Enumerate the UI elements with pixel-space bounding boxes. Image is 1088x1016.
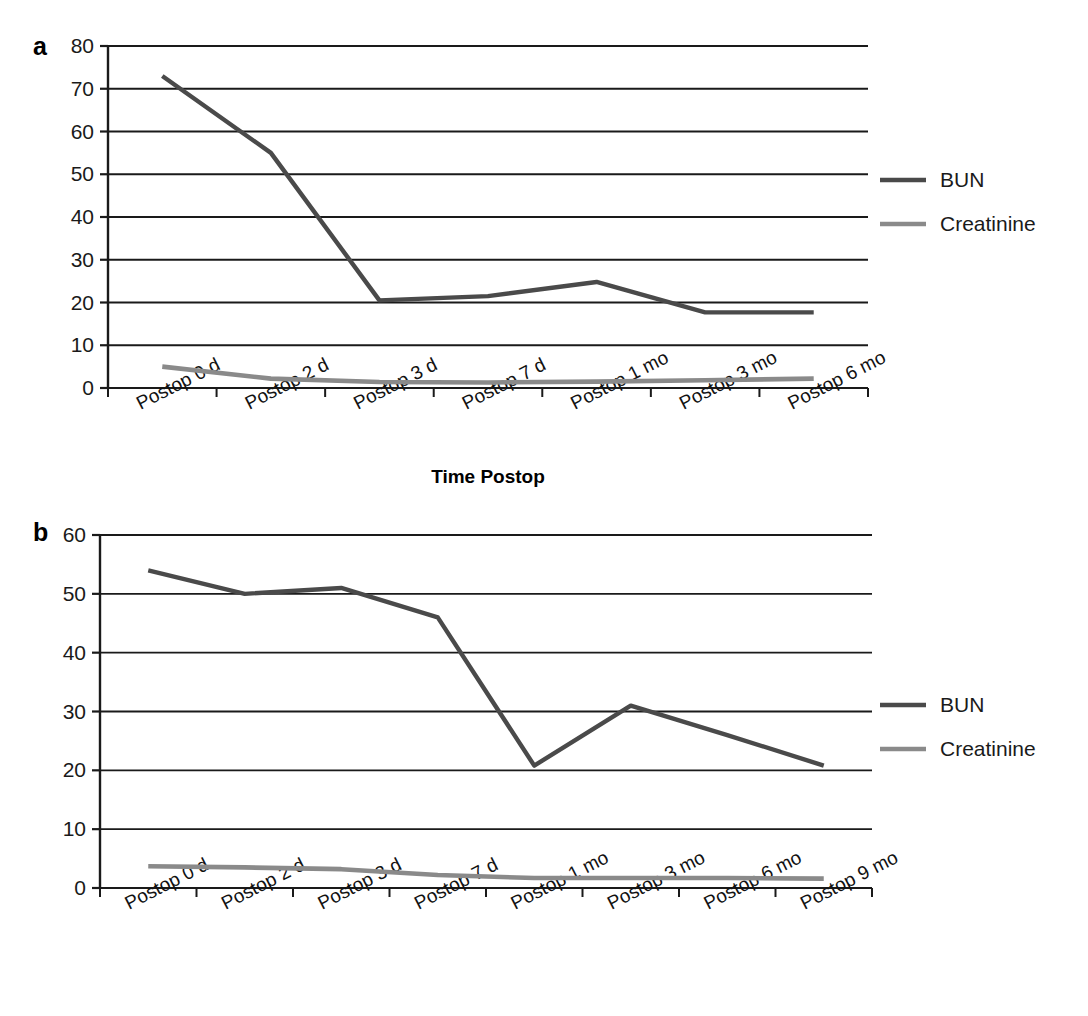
legend: BUNCreatinine: [880, 168, 1036, 235]
y-tick-label: 10: [63, 817, 86, 840]
y-tick-label: 50: [71, 162, 94, 185]
x-tick-label: Postop 3 d: [314, 854, 404, 914]
x-tick-label: Postop 0 d: [121, 854, 211, 914]
y-tick-label: 10: [71, 333, 94, 356]
y-tick-label: 60: [71, 120, 94, 143]
plot-area-b: 0102030405060Postop 0 dPostop 2 dPostop …: [0, 500, 1088, 980]
y-axis: 0102030405060: [63, 523, 100, 899]
series-line-bun: [162, 76, 813, 312]
legend-label-creatinine: Creatinine: [940, 737, 1036, 760]
legend: BUNCreatinine: [880, 693, 1036, 760]
y-tick-label: 30: [63, 700, 86, 723]
x-axis-title: Time Postop: [431, 466, 545, 487]
chart-svg-a: 01020304050607080Postop 0 dPostop 2 dPos…: [0, 0, 1088, 500]
gridlines: [108, 46, 868, 388]
y-tick-label: 0: [74, 876, 86, 899]
x-tick-label: Postop 7 d: [411, 854, 501, 914]
x-tick-label: Postop 2 d: [218, 854, 308, 914]
y-tick-label: 60: [63, 523, 86, 546]
y-tick-label: 80: [71, 34, 94, 57]
series-line-bun: [148, 570, 824, 765]
chart-svg-b: 0102030405060Postop 0 dPostop 2 dPostop …: [0, 500, 1088, 980]
legend-label-bun: BUN: [940, 168, 984, 191]
y-tick-label: 50: [63, 582, 86, 605]
legend-label-creatinine: Creatinine: [940, 212, 1036, 235]
y-tick-label: 40: [63, 641, 86, 664]
y-tick-label: 0: [82, 376, 94, 399]
legend-label-bun: BUN: [940, 693, 984, 716]
y-tick-label: 40: [71, 205, 94, 228]
chart-panel-b: b 0102030405060Postop 0 dPostop 2 dPosto…: [0, 500, 1088, 980]
y-tick-label: 70: [71, 77, 94, 100]
y-tick-label: 30: [71, 248, 94, 271]
x-tick-label: Postop 2 d: [241, 354, 331, 414]
chart-panel-a: a 01020304050607080Postop 0 dPostop 2 dP…: [0, 0, 1088, 500]
x-tick-label: Postop 0 d: [133, 354, 223, 414]
plot-area-a: 01020304050607080Postop 0 dPostop 2 dPos…: [0, 0, 1088, 500]
y-tick-label: 20: [71, 291, 94, 314]
y-axis: 01020304050607080: [71, 34, 108, 399]
y-tick-label: 20: [63, 758, 86, 781]
